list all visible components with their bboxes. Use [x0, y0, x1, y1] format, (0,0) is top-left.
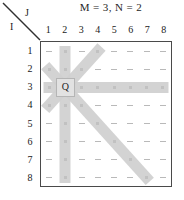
column-header-4: 4 [90, 22, 107, 37]
attack-dot-icon [64, 50, 67, 53]
attack-dot-icon [129, 158, 132, 161]
attack-dot-icon [113, 140, 116, 143]
row-header-3: 3 [22, 78, 38, 96]
row-header-8: 8 [22, 169, 38, 187]
axis-label-i: I [10, 21, 13, 32]
empty-cell [106, 42, 122, 60]
column-header-7: 7 [139, 22, 156, 37]
empty-cell [41, 150, 57, 168]
board-grid: Q [41, 42, 171, 186]
empty-cell [74, 114, 90, 132]
attack-dot-icon [64, 122, 67, 125]
empty-dash-icon [144, 141, 150, 142]
attack-dot-icon [48, 68, 51, 71]
attack-dot-icon [129, 86, 132, 89]
queen-cell: Q [57, 78, 73, 96]
attack-dot-icon [64, 68, 67, 71]
attacked-cell [57, 60, 73, 78]
attacked-cell [155, 78, 171, 96]
axis-label-j: J [25, 7, 29, 18]
column-header-2: 2 [57, 22, 74, 37]
attacked-cell [57, 150, 73, 168]
attacked-cell [41, 96, 57, 114]
column-header-5: 5 [106, 22, 123, 37]
empty-dash-icon [160, 51, 166, 52]
attack-dot-icon [48, 86, 51, 89]
empty-dash-icon [79, 51, 85, 52]
empty-dash-icon [127, 141, 133, 142]
attacked-cell [122, 150, 138, 168]
empty-dash-icon [160, 123, 166, 124]
empty-dash-icon [111, 105, 117, 106]
empty-dash-icon [79, 123, 85, 124]
empty-cell [41, 42, 57, 60]
attacked-cell [106, 132, 122, 150]
empty-cell [90, 96, 106, 114]
attacked-cell [74, 96, 90, 114]
empty-cell [106, 150, 122, 168]
empty-dash-icon [46, 51, 52, 52]
empty-dash-icon [111, 123, 117, 124]
attack-dot-icon [96, 50, 99, 53]
attack-dot-icon [64, 104, 67, 107]
attacked-cell [57, 96, 73, 114]
empty-cell [106, 60, 122, 78]
attack-dot-icon [80, 68, 83, 71]
attacked-cell [90, 114, 106, 132]
chess-board: Q [40, 41, 172, 187]
empty-dash-icon [46, 177, 52, 178]
empty-cell [90, 60, 106, 78]
attack-dot-icon [96, 122, 99, 125]
row-header-6: 6 [22, 132, 38, 150]
empty-cell [41, 132, 57, 150]
attacked-cell [57, 114, 73, 132]
empty-dash-icon [46, 123, 52, 124]
empty-cell [122, 114, 138, 132]
attacked-cell [122, 78, 138, 96]
attack-dot-icon [96, 86, 99, 89]
row-header-4: 4 [22, 96, 38, 114]
column-header-1: 1 [40, 22, 57, 37]
column-header-3: 3 [73, 22, 90, 37]
attack-dot-icon [80, 104, 83, 107]
empty-cell [74, 42, 90, 60]
queen-label: Q [62, 82, 69, 92]
empty-dash-icon [144, 105, 150, 106]
attacked-cell [106, 78, 122, 96]
attacked-cell [41, 60, 57, 78]
column-header-row: 1 2 3 4 5 6 7 8 [40, 22, 172, 37]
empty-cell [106, 168, 122, 186]
empty-dash-icon [127, 123, 133, 124]
empty-cell [155, 150, 171, 168]
empty-cell [155, 132, 171, 150]
attack-dot-icon [145, 176, 148, 179]
empty-cell [155, 114, 171, 132]
row-header-7: 7 [22, 151, 38, 169]
empty-cell [74, 168, 90, 186]
row-header-column: 1 2 3 4 5 6 7 8 [22, 41, 38, 187]
empty-dash-icon [111, 177, 117, 178]
empty-dash-icon [144, 51, 150, 52]
attack-dot-icon [161, 86, 164, 89]
empty-dash-icon [95, 105, 101, 106]
empty-dash-icon [95, 141, 101, 142]
row-header-2: 2 [22, 59, 38, 77]
attack-dot-icon [80, 86, 83, 89]
empty-dash-icon [160, 69, 166, 70]
attacked-cell [57, 42, 73, 60]
empty-dash-icon [79, 141, 85, 142]
empty-cell [139, 150, 155, 168]
empty-cell [139, 42, 155, 60]
empty-dash-icon [111, 69, 117, 70]
empty-cell [139, 60, 155, 78]
attacked-cell [90, 42, 106, 60]
attacked-cell [139, 78, 155, 96]
attack-dot-icon [145, 86, 148, 89]
empty-cell [122, 42, 138, 60]
attack-dot-icon [64, 176, 67, 179]
empty-dash-icon [95, 69, 101, 70]
empty-dash-icon [46, 141, 52, 142]
attacked-cell [57, 168, 73, 186]
attacked-cell [90, 78, 106, 96]
empty-cell [122, 132, 138, 150]
